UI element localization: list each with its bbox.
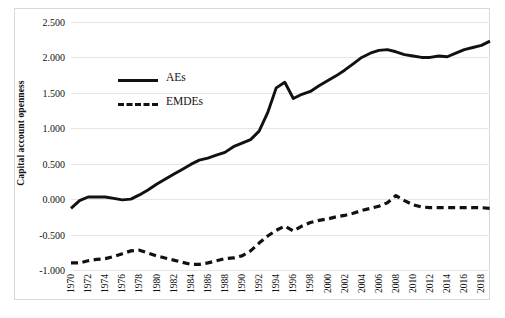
x-tick-label: 2012 [425,274,435,293]
plot-area: 2.5002.0001.5001.0000.5000.000-0.500-1.0… [71,22,490,270]
x-tick-label: 1992 [254,274,264,293]
y-tick-label: 2.000 [9,52,65,63]
y-tick-label: -1.000 [9,265,65,276]
x-tick-label: 1994 [271,274,281,293]
x-tick-label: 1970 [66,274,76,293]
x-tick-label: 1972 [83,274,93,293]
y-tick-label: 0.500 [9,158,65,169]
gridline [71,270,490,271]
legend-item-emdes: EMDEs [118,94,268,118]
legend-line-dashed-icon [118,103,158,106]
x-tick-label: 1974 [100,274,110,293]
y-tick-label: 2.500 [9,17,65,28]
x-tick-label: 2008 [391,274,401,293]
legend-item-aes: AEs [118,70,268,94]
x-tick-label: 1986 [203,274,213,293]
x-tick-label: 2016 [459,274,469,293]
chart-page: Capital account openness 2.5002.0001.500… [0,0,505,318]
legend-line-solid-icon [118,79,158,82]
x-tick-label: 1984 [186,274,196,293]
legend-label-emdes: EMDEs [166,95,203,107]
x-tick-label: 2006 [374,274,384,293]
x-tick-label: 1998 [305,274,315,293]
y-tick-label: 0.000 [9,194,65,205]
x-tick-label: 2010 [408,274,418,293]
x-tick-label: 1978 [134,274,144,293]
x-tick-label: 1976 [117,274,127,293]
chart-legend: AEs EMDEs [118,70,268,118]
x-tick-label: 2018 [476,274,486,293]
y-tick-label: 1.000 [9,123,65,134]
x-tick-label: 1990 [237,274,247,293]
series-lines [71,22,490,270]
series-line-aes [71,41,490,208]
x-tick-label: 2004 [357,274,367,293]
x-tick-label: 1982 [169,274,179,293]
x-tick-label: 2000 [323,274,333,293]
x-tick-label: 1980 [152,274,162,293]
x-tick-label: 2014 [442,274,452,293]
y-tick-label: -0.500 [9,229,65,240]
x-tick-label: 2002 [340,274,350,293]
legend-label-aes: AEs [166,71,186,83]
series-line-emdes [71,196,490,265]
x-tick-label: 1996 [288,274,298,293]
x-tick-label: 1988 [220,274,230,293]
y-tick-label: 1.500 [9,87,65,98]
